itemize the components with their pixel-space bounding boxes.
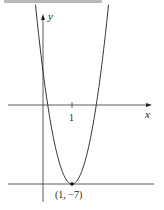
vertex-label: (1, −7) [55,189,82,201]
x-axis-arrow-icon [146,103,152,107]
parabola-figure: y x 1 (1, −7) [0,0,164,210]
y-axis-label: y [47,10,53,22]
x-tick-label: 1 [69,112,74,123]
x-axis-label: x [144,108,150,120]
vertex-point [70,182,74,186]
parabola-curve [35,5,108,184]
y-axis-arrow-icon [41,14,45,20]
